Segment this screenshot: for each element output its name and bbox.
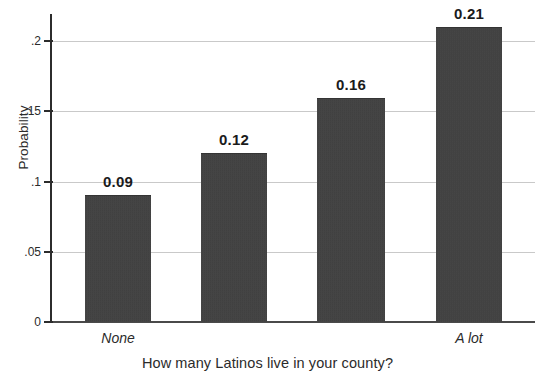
y-tick-mark-0.00 — [44, 321, 53, 323]
y-tick-label-0.00: 0 — [0, 316, 41, 328]
y-tick-mark-0.15 — [44, 110, 53, 112]
bar-some-high[interactable] — [317, 98, 385, 322]
y-tick-mark-0.10 — [44, 181, 53, 183]
y-axis-line — [50, 14, 52, 323]
bar-value-label-some-high: 0.16 — [306, 77, 396, 92]
x-category-label-a-lot: A lot — [414, 331, 524, 346]
bar-chart-figure: Probability .2 .15 .1 .05 0 0.09 0.12 0.… — [0, 0, 535, 379]
y-tick-label-0.10: .1 — [0, 176, 41, 188]
y-tick-label-0.15: .15 — [0, 105, 41, 117]
bar-some-low[interactable] — [201, 153, 267, 322]
y-tick-label-0.05: .05 — [0, 246, 41, 258]
x-axis-title: How many Latinos live in your county? — [0, 355, 535, 371]
bar-value-label-a-lot: 0.21 — [424, 6, 514, 21]
bar-none[interactable] — [85, 195, 151, 322]
bar-a-lot[interactable] — [436, 27, 502, 322]
y-tick-label-0.20: .2 — [0, 35, 41, 47]
x-category-label-none: None — [63, 331, 173, 346]
bar-value-label-none: 0.09 — [73, 174, 163, 189]
y-tick-mark-0.05 — [44, 251, 53, 253]
y-tick-mark-0.20 — [44, 40, 53, 42]
bar-value-label-some-low: 0.12 — [189, 132, 279, 147]
